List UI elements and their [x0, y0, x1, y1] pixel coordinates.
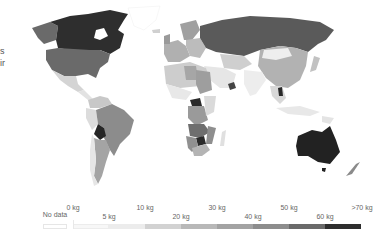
legend-bin-40-50: [253, 224, 289, 229]
region-india[interactable]: [244, 70, 266, 96]
legend-label-20kg: 20 kg: [172, 213, 189, 220]
legend-label-10kg: 10 kg: [136, 204, 153, 211]
legend-label-5kg: 5 kg: [102, 213, 115, 220]
region-argentina[interactable]: [94, 138, 110, 184]
region-greenland[interactable]: [128, 6, 160, 30]
legend-bin-20-30: [181, 224, 217, 229]
legend-bin-50-60: [289, 224, 325, 229]
region-libya[interactable]: [184, 66, 198, 80]
region-alaska[interactable]: [32, 22, 58, 44]
legend-label-30kg: 30 kg: [208, 204, 225, 211]
legend-label-50kg: 50 kg: [280, 204, 297, 211]
region-papua-new-guinea[interactable]: [322, 116, 334, 124]
region-new-zealand[interactable]: [346, 162, 360, 176]
region-canada[interactable]: [50, 10, 128, 54]
legend-bin-10-20: [145, 224, 181, 229]
region-australia[interactable]: [296, 126, 340, 164]
legend-bin-0-5: [73, 224, 109, 229]
region-iceland[interactable]: [152, 29, 160, 33]
region-madagascar[interactable]: [220, 130, 226, 146]
region-drc[interactable]: [188, 106, 208, 126]
legend-bin-5-10: [109, 224, 145, 229]
region-uk[interactable]: [164, 34, 170, 44]
region-east-africa[interactable]: [204, 96, 216, 116]
legend-label-0kg: 0 kg: [66, 204, 79, 211]
legend-label-gt70kg: >70 kg: [351, 204, 372, 211]
region-japan[interactable]: [310, 56, 320, 72]
legend-label-60kg: 60 kg: [316, 213, 333, 220]
region-kazakhstan[interactable]: [220, 54, 252, 70]
region-tasmania[interactable]: [322, 168, 326, 172]
legend-label-40kg: 40 kg: [244, 213, 261, 220]
legend-tick-0: [73, 220, 74, 229]
region-central-african-republic[interactable]: [190, 98, 202, 106]
region-egypt-sudan[interactable]: [196, 70, 212, 94]
legend-no-data-label: No data: [43, 211, 68, 218]
legend-bin-60-70: [325, 224, 361, 229]
region-central-america[interactable]: [78, 90, 94, 100]
region-angola-zambia[interactable]: [188, 124, 210, 138]
world-map: [0, 0, 391, 200]
legend-no-data-swatch: [43, 224, 67, 229]
legend-bin-30-40: [217, 224, 253, 229]
region-indonesia[interactable]: [276, 106, 320, 116]
region-scandinavia[interactable]: [180, 20, 200, 40]
region-southeast-asia[interactable]: [270, 86, 286, 104]
